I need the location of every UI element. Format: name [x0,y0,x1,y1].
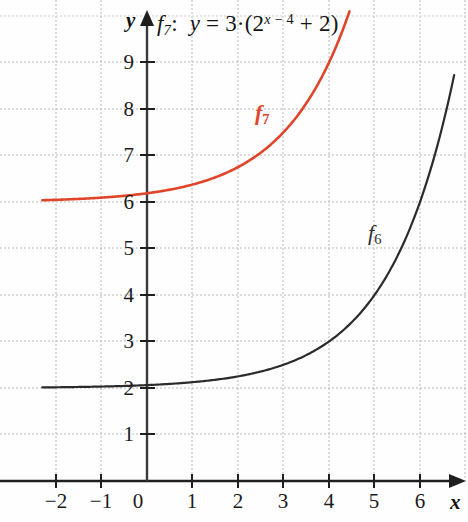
grid-lines-horizontal [0,16,468,434]
x-tick-5: 5 [357,491,391,512]
y-tick-2: 2 [104,378,134,399]
formula-plus: + [300,11,313,36]
y-tick-7: 7 [104,145,134,166]
formula-inner-term: 2 [319,11,331,36]
x-tick-4: 4 [312,491,346,512]
curve-label-f7: f7 [255,102,270,127]
y-tick-8: 8 [104,99,134,120]
plot-canvas [0,0,468,522]
formula-open-paren: ( [245,11,253,36]
formula-base: 2 [253,11,265,36]
x-axis [0,474,466,488]
x-tick-minus2: −2 [39,491,73,512]
x-tick-3: 3 [266,491,300,512]
formula-y: y [190,11,200,36]
y-tick-1: 1 [104,424,134,445]
y-axis-label: y [126,10,135,31]
formula-close-paren: ) [331,11,339,36]
formula-dot: · [237,11,245,36]
y-tick-9: 9 [104,52,134,73]
x-tick-minus1: −1 [84,491,118,512]
x-tick-6: 6 [403,491,437,512]
function-graph-figure: f7: y = 3·(2x − 4 + 2) f7 f6 y x 9 8 7 6… [0,0,468,522]
formula-title: f7: y = 3·(2x − 4 + 2) [157,12,339,38]
x-tick-2: 2 [221,491,255,512]
formula-coefficient: 3 [225,11,237,36]
formula-colon: : [171,11,178,36]
x-axis-label: x [450,492,461,513]
x-tick-1: 1 [175,491,209,512]
curve-label-f6: f6 [368,222,381,247]
x-tick-0: 0 [121,491,155,512]
y-tick-5: 5 [104,238,134,259]
y-tick-4: 4 [104,285,134,306]
curve-f7 [42,11,349,200]
formula-exponent: x − 4 [264,11,294,27]
formula-equals: = [206,11,219,36]
y-tick-6: 6 [104,192,134,213]
y-tick-3: 3 [104,331,134,352]
y-axis [140,10,155,481]
formula-function-name: f7 [157,11,171,36]
